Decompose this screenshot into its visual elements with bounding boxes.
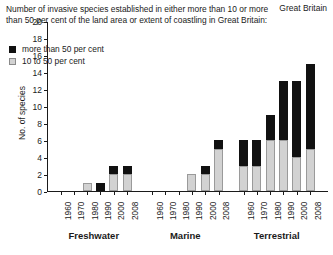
y-tick-label-4: 4 — [20, 154, 42, 163]
bar-segment-10-to-50 — [239, 166, 248, 192]
x-tick-label-marine-1970: 1970 — [169, 202, 177, 220]
dark-square-icon — [9, 46, 16, 53]
x-tick-label-terrestrial-1990: 1990 — [287, 202, 295, 220]
bar-segment-10-to-50 — [187, 174, 196, 191]
region-label: Great Britain — [279, 3, 327, 13]
bar-terrestrial-2000 — [292, 81, 301, 192]
x-tick-label-freshwater-2000: 2000 — [117, 202, 125, 220]
bar-terrestrial-1960 — [239, 140, 248, 191]
bar-segment-10-to-50 — [214, 149, 223, 192]
bar-terrestrial-1980 — [266, 115, 275, 192]
y-tick-label-12: 12 — [20, 86, 42, 95]
bar-segment-10-to-50 — [83, 183, 92, 192]
bar-segment-10-to-50 — [123, 174, 132, 191]
x-tick-label-freshwater-1990: 1990 — [104, 202, 112, 220]
bar-segment-10-to-50 — [109, 174, 118, 191]
y-tick-label-8: 8 — [20, 120, 42, 129]
bar-terrestrial-1990 — [279, 81, 288, 192]
bar-freshwater-2008 — [123, 166, 132, 192]
bar-segment-more-than-50 — [109, 166, 118, 175]
x-tick-label-terrestrial-1970: 1970 — [260, 202, 268, 220]
x-tick-label-terrestrial-1960: 1960 — [247, 202, 255, 220]
bar-segment-more-than-50 — [252, 140, 261, 166]
y-tick-label-14: 14 — [20, 69, 42, 78]
y-tick-label-18: 18 — [20, 35, 42, 44]
bar-segment-10-to-50 — [201, 174, 210, 191]
x-tick-label-marine-2000: 2000 — [209, 202, 217, 220]
bar-freshwater-2000 — [109, 166, 118, 192]
bar-marine-2000 — [201, 166, 210, 192]
group-labels: FreshwaterMarineTerrestrial — [47, 230, 328, 246]
bar-segment-more-than-50 — [266, 115, 275, 141]
bar-segment-more-than-50 — [306, 64, 315, 149]
y-tick-label-2: 2 — [20, 171, 42, 180]
y-tick-mark-0 — [44, 192, 47, 193]
y-tick-label-10: 10 — [20, 103, 42, 112]
bar-freshwater-1990 — [96, 183, 105, 192]
plot-area: 02468101214161820 — [47, 22, 328, 192]
bar-segment-more-than-50 — [279, 81, 288, 141]
x-tick-label-marine-1980: 1980 — [182, 202, 190, 220]
bar-freshwater-1980 — [83, 183, 92, 192]
bar-segment-more-than-50 — [123, 166, 132, 175]
bar-segment-10-to-50 — [252, 166, 261, 192]
light-square-icon — [9, 58, 16, 65]
bar-terrestrial-1970 — [252, 140, 261, 191]
bar-segment-more-than-50 — [214, 140, 223, 149]
bar-segment-more-than-50 — [239, 140, 248, 166]
bar-marine-2008 — [214, 140, 223, 191]
y-tick-label-20: 20 — [20, 18, 42, 27]
x-tick-label-terrestrial-1980: 1980 — [274, 202, 282, 220]
x-tick-label-freshwater-1970: 1970 — [77, 202, 85, 220]
bar-terrestrial-2008 — [306, 64, 315, 192]
y-tick-label-16: 16 — [20, 52, 42, 61]
bar-segment-10-to-50 — [306, 149, 315, 192]
bar-segment-more-than-50 — [201, 166, 210, 175]
x-tick-label-marine-1990: 1990 — [195, 202, 203, 220]
group-label-terrestrial: Terrestrial — [254, 230, 300, 241]
invasive-species-chart: Great Britain No. of species Number of i… — [0, 0, 333, 255]
bars-layer — [47, 22, 328, 192]
x-tick-label-freshwater-1960: 1960 — [64, 202, 72, 220]
x-tick-label-terrestrial-2008: 2008 — [314, 202, 322, 220]
bar-segment-10-to-50 — [292, 157, 301, 191]
bar-segment-more-than-50 — [96, 183, 105, 192]
bar-segment-more-than-50 — [292, 81, 301, 158]
x-tick-label-terrestrial-2000: 2000 — [300, 202, 308, 220]
bar-segment-10-to-50 — [279, 140, 288, 191]
x-tick-label-freshwater-2008: 2008 — [131, 202, 139, 220]
bar-marine-1990 — [187, 174, 196, 191]
bar-segment-10-to-50 — [266, 140, 275, 191]
y-tick-label-0: 0 — [20, 188, 42, 197]
x-tick-label-marine-2008: 2008 — [222, 202, 230, 220]
y-tick-label-6: 6 — [20, 137, 42, 146]
x-tick-label-marine-1960: 1960 — [156, 202, 164, 220]
group-label-marine: Marine — [170, 230, 201, 241]
group-label-freshwater: Freshwater — [68, 230, 119, 241]
x-tick-label-freshwater-1980: 1980 — [91, 202, 99, 220]
x-tick-labels: 1960197019801990200020081960197019801990… — [47, 194, 328, 224]
